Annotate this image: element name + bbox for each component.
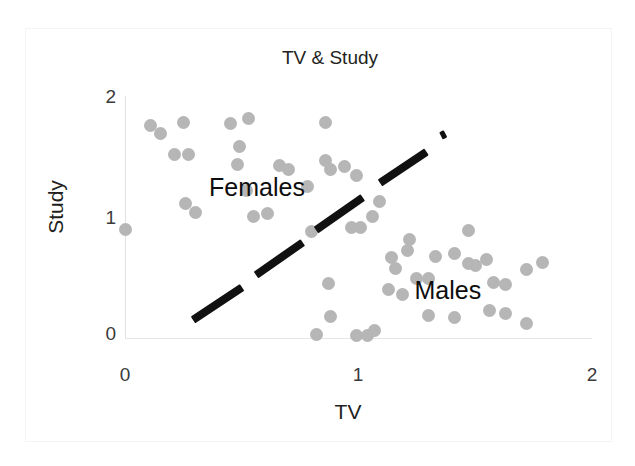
data-point — [182, 148, 195, 161]
group-label-females: Females — [209, 173, 305, 202]
y-axis-title: Study — [44, 137, 68, 277]
data-point — [366, 210, 379, 223]
data-point — [168, 148, 181, 161]
group-label-males: Males — [415, 276, 482, 305]
data-point — [483, 304, 496, 317]
data-point — [448, 247, 461, 260]
data-point — [462, 224, 475, 237]
data-point — [401, 244, 414, 257]
data-point — [536, 256, 549, 269]
data-point — [247, 210, 260, 223]
data-point — [119, 223, 132, 236]
data-point — [422, 309, 435, 322]
data-point — [154, 127, 167, 140]
data-point — [389, 262, 402, 275]
data-point — [448, 311, 461, 324]
x-axis-title: TV — [288, 400, 408, 424]
chart-figure: TV & Study Study TV 2 1 0 0 1 2 FemalesM… — [0, 0, 635, 466]
y-tick-label-0: 0 — [86, 323, 116, 345]
x-tick-label-1: 1 — [338, 364, 378, 386]
data-point — [177, 116, 190, 129]
y-tick-label-2: 2 — [86, 86, 116, 108]
data-point — [233, 140, 246, 153]
x-tick-label-0: 0 — [105, 364, 145, 386]
chart-title: TV & Study — [230, 47, 430, 69]
data-point — [231, 158, 244, 171]
data-point — [350, 169, 363, 182]
x-tick-label-2: 2 — [572, 364, 612, 386]
data-point — [189, 206, 202, 219]
data-point — [324, 310, 337, 323]
data-point — [520, 263, 533, 276]
data-point — [322, 277, 335, 290]
data-point — [310, 328, 323, 341]
data-point — [324, 163, 337, 176]
data-point — [429, 250, 442, 263]
data-point — [354, 221, 367, 234]
y-tick-label-1: 1 — [86, 207, 116, 229]
data-point — [224, 117, 237, 130]
